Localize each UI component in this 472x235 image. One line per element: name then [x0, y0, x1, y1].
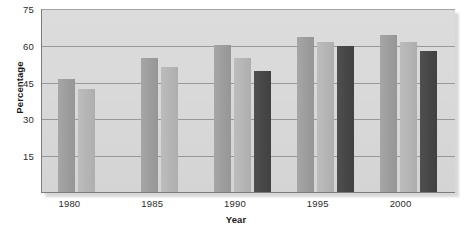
x-tick-label: 1995	[307, 198, 329, 209]
x-tick-label: 1985	[141, 198, 163, 209]
x-tick-label: 1980	[58, 198, 80, 209]
x-axis-title: Year	[0, 214, 472, 225]
bar-chart-figure: Percentage 1530456075 198019851990199520…	[0, 0, 472, 235]
x-tick-label: 1990	[224, 198, 246, 209]
x-axis-tick-labels: 19801985199019952000	[0, 0, 472, 235]
x-tick-label: 2000	[390, 198, 412, 209]
